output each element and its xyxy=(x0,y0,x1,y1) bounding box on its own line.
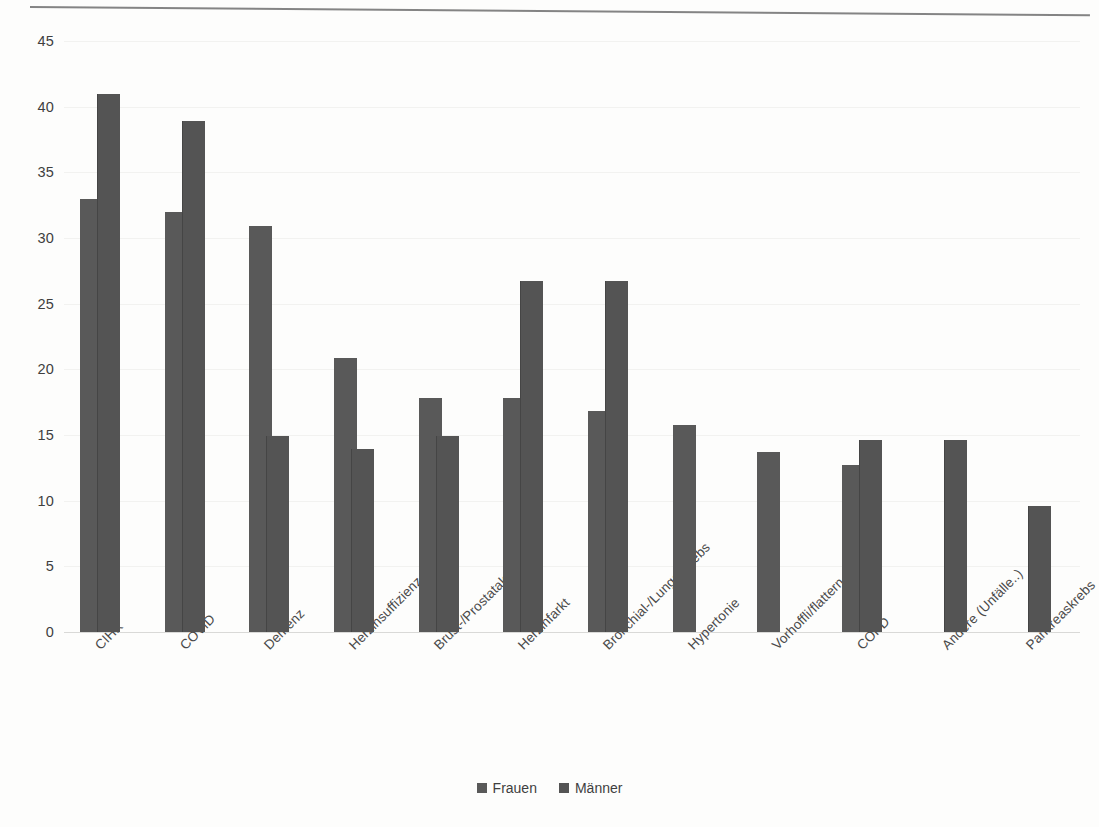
legend-label: Frauen xyxy=(493,780,537,796)
page-edge-line xyxy=(30,6,1090,16)
bar-group xyxy=(927,41,967,632)
bar-maenner[interactable] xyxy=(859,440,882,632)
y-axis-tick-label: 20 xyxy=(8,361,54,377)
legend-swatch-icon xyxy=(477,783,487,793)
bar-maenner[interactable] xyxy=(436,436,459,632)
legend-item[interactable]: Männer xyxy=(559,780,622,796)
y-axis-tick-label: 35 xyxy=(8,164,54,180)
bar-group xyxy=(1011,41,1051,632)
bar-frauen[interactable] xyxy=(673,425,696,633)
bar-maenner[interactable] xyxy=(520,281,543,632)
bar-group xyxy=(419,41,459,632)
bar-group xyxy=(249,41,289,632)
chart-legend: FrauenMänner xyxy=(0,780,1099,796)
bar-group xyxy=(80,41,120,632)
bar-group xyxy=(334,41,374,632)
bar-maenner[interactable] xyxy=(944,440,967,632)
y-axis-tick-label: 45 xyxy=(8,33,54,49)
bar-group xyxy=(503,41,543,632)
y-axis-tick-label: 5 xyxy=(8,558,54,574)
bar-maenner[interactable] xyxy=(266,436,289,632)
bar-group xyxy=(757,41,797,632)
bar-maenner[interactable] xyxy=(97,94,120,632)
bar-group xyxy=(165,41,205,632)
gridline-0 xyxy=(64,632,1080,633)
bar-group xyxy=(588,41,628,632)
y-axis-tick-label: 15 xyxy=(8,427,54,443)
bar-maenner[interactable] xyxy=(1028,506,1051,632)
bar-maenner[interactable] xyxy=(351,449,374,632)
bar-group xyxy=(842,41,882,632)
legend-label: Männer xyxy=(575,780,622,796)
bar-frauen[interactable] xyxy=(757,452,780,632)
y-axis-tick-label: 25 xyxy=(8,296,54,312)
y-axis-tick-label: 10 xyxy=(8,493,54,509)
plot-area xyxy=(64,41,1080,632)
y-axis-tick-label: 0 xyxy=(8,624,54,640)
y-axis-tick-label: 40 xyxy=(8,99,54,115)
legend-swatch-icon xyxy=(559,783,569,793)
legend-item[interactable]: Frauen xyxy=(477,780,537,796)
x-axis-labels: CIHKCOVIDDemenzHerzinsuffizienzBrust-/Pr… xyxy=(64,636,1080,766)
y-axis-tick-label: 30 xyxy=(8,230,54,246)
bar-maenner[interactable] xyxy=(605,281,628,632)
chart-page: 051015202530354045 CIHKCOVIDDemenzHerzin… xyxy=(0,0,1099,827)
bar-maenner[interactable] xyxy=(182,121,205,632)
bar-series-container xyxy=(64,41,1080,632)
